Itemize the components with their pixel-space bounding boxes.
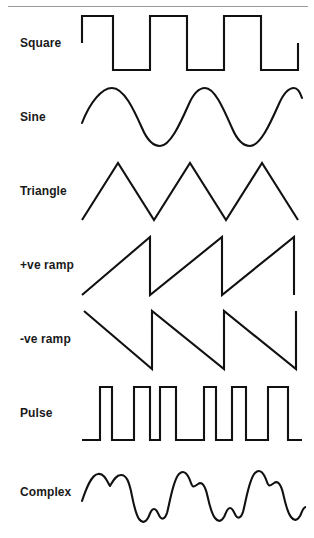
waveform-plot-sine [80, 80, 306, 154]
waveform-row-triangle: Triangle [0, 154, 314, 228]
waveform-label-pulse: Pulse [20, 407, 53, 419]
waveform-label-complex: Complex [20, 486, 71, 498]
waveform-path-negative-ramp [84, 311, 296, 369]
waveform-label-negative-ramp: -ve ramp [20, 333, 71, 345]
waveform-row-positive-ramp: +ve ramp [0, 228, 314, 302]
waveform-path-sine [82, 88, 302, 146]
waveform-label-positive-ramp: +ve ramp [20, 259, 74, 271]
waveform-row-complex: Complex [0, 455, 314, 529]
waveform-plot-triangle [80, 154, 306, 228]
waveform-row-pulse: Pulse [0, 376, 314, 450]
waveform-row-square: Square [0, 6, 314, 80]
waveform-plot-complex [80, 455, 306, 529]
waveform-path-triangle [82, 163, 298, 220]
waveform-path-complex [82, 471, 306, 522]
waveform-path-positive-ramp [82, 237, 294, 295]
waveform-label-square: Square [20, 37, 61, 49]
waveform-row-negative-ramp: -ve ramp [0, 302, 314, 376]
waveform-plot-square [80, 6, 306, 80]
waveform-row-sine: Sine [0, 80, 314, 154]
waveform-path-pulse [82, 387, 302, 440]
waveform-diagram: Square Sine Triangle +ve ramp [0, 0, 314, 538]
waveform-plot-negative-ramp [80, 302, 306, 376]
waveform-plot-pulse [80, 376, 306, 450]
waveform-path-square [82, 16, 298, 70]
waveform-label-triangle: Triangle [20, 185, 67, 197]
waveform-plot-positive-ramp [80, 228, 306, 302]
waveform-label-sine: Sine [20, 111, 46, 123]
